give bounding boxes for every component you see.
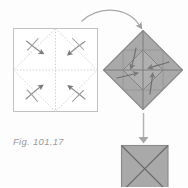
arc-arrow-icon	[82, 10, 140, 26]
step-1-unfolded-square	[14, 29, 98, 112]
step-2-folded-diamond	[104, 31, 183, 110]
figure-illustration	[0, 0, 188, 187]
figure-caption: Fig. 101.17	[13, 136, 64, 147]
arrow-diamond-to-square	[139, 113, 149, 144]
figure-container: Fig. 101.17	[0, 0, 188, 187]
straight-arrow-head-icon	[139, 137, 149, 144]
step-3-final-square	[122, 146, 169, 188]
arrow-square-to-diamond	[82, 10, 140, 26]
